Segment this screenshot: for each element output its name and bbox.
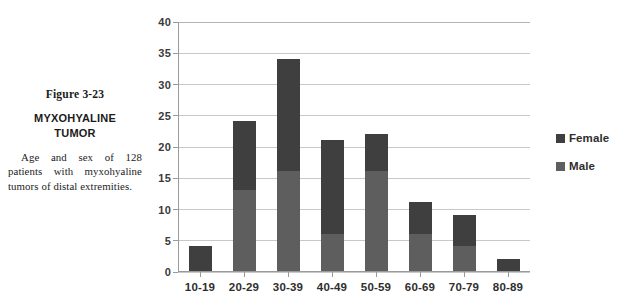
legend-label: Female	[569, 132, 609, 144]
y-tick-mark	[173, 178, 178, 179]
y-axis-line	[178, 22, 179, 272]
bar-segment-male	[453, 246, 476, 271]
x-tick-label: 80-89	[493, 281, 523, 293]
y-tick-mark	[173, 84, 178, 85]
figure-title-line-2: TUMOR	[54, 127, 95, 139]
bar-segment-male	[277, 171, 300, 271]
chart-legend: FemaleMale	[556, 132, 609, 188]
bar-group	[277, 59, 300, 272]
x-tick-mark	[332, 272, 333, 277]
y-tick-label: 15	[158, 172, 171, 184]
x-tick-mark	[288, 272, 289, 277]
gridline	[178, 240, 530, 241]
bar-group	[233, 121, 256, 271]
bar-segment-male	[321, 234, 344, 272]
bar-segment-female	[409, 202, 432, 233]
figure-description: Age and sex of 128 patients with myxohya…	[8, 150, 142, 193]
figure-number: Figure 3-23	[8, 88, 142, 100]
x-tick-label: 60-69	[405, 281, 435, 293]
bar-group	[321, 140, 344, 271]
plot-area: 0510152025303540 10-1920-2930-3940-4950-…	[178, 22, 530, 272]
x-axis-line	[178, 271, 530, 272]
y-tick-mark	[173, 147, 178, 148]
gridline	[178, 53, 530, 54]
bar-group	[409, 202, 432, 271]
bar-segment-female	[189, 246, 212, 271]
bar-group	[189, 246, 212, 271]
y-tick-mark	[173, 240, 178, 241]
x-tick-mark	[244, 272, 245, 277]
legend-label: Male	[569, 160, 595, 172]
bar-segment-female	[453, 215, 476, 246]
bar-segment-female	[321, 140, 344, 234]
x-tick-mark	[420, 272, 421, 277]
bar-segment-female	[497, 259, 520, 272]
x-tick-label: 50-59	[361, 281, 391, 293]
x-tick-label: 40-49	[317, 281, 347, 293]
y-tick-label: 35	[158, 47, 171, 59]
figure-container: Figure 3-23 MYXOHYALINE TUMOR Age and se…	[0, 0, 633, 302]
figure-title: MYXOHYALINE TUMOR	[8, 111, 142, 140]
x-tick-label: 20-29	[229, 281, 259, 293]
bar-segment-male	[409, 234, 432, 272]
gridline	[178, 115, 530, 116]
figure-title-line-1: MYXOHYALINE	[34, 112, 116, 124]
gridline	[178, 22, 530, 23]
bar-segment-male	[233, 190, 256, 271]
x-tick-mark	[200, 272, 201, 277]
y-tick-mark	[173, 22, 178, 23]
bar-group	[453, 215, 476, 271]
bar-group	[497, 259, 520, 272]
y-tick-mark	[173, 115, 178, 116]
bar-group	[365, 134, 388, 272]
y-tick-mark	[173, 272, 178, 273]
x-tick-label: 70-79	[449, 281, 479, 293]
x-tick-mark	[376, 272, 377, 277]
gridline	[178, 209, 530, 210]
gridline	[178, 147, 530, 148]
legend-item: Male	[556, 160, 609, 172]
x-tick-mark	[464, 272, 465, 277]
y-tick-label: 5	[165, 235, 171, 247]
legend-swatch-icon	[556, 134, 565, 143]
bar-segment-male	[365, 171, 388, 271]
gridline	[178, 178, 530, 179]
x-tick-mark	[508, 272, 509, 277]
y-tick-label: 40	[158, 16, 171, 28]
legend-swatch-icon	[556, 162, 565, 171]
legend-item: Female	[556, 132, 609, 144]
bar-segment-female	[233, 121, 256, 190]
y-tick-label: 25	[158, 110, 171, 122]
chart-area: 0510152025303540 10-1920-2930-3940-4950-…	[148, 10, 548, 302]
x-tick-label: 10-19	[185, 281, 215, 293]
bar-segment-female	[365, 134, 388, 172]
bar-segment-female	[277, 59, 300, 172]
x-tick-label: 30-39	[273, 281, 303, 293]
y-tick-label: 0	[165, 266, 171, 278]
gridline	[178, 84, 530, 85]
y-tick-mark	[173, 53, 178, 54]
y-tick-label: 10	[158, 204, 171, 216]
figure-caption-block: Figure 3-23 MYXOHYALINE TUMOR Age and se…	[8, 88, 142, 193]
y-tick-label: 20	[158, 141, 171, 153]
y-tick-mark	[173, 209, 178, 210]
y-tick-label: 30	[158, 79, 171, 91]
